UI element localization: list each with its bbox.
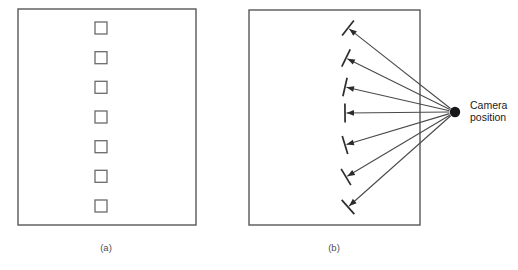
figure-container: (a) Camera position (b) bbox=[0, 0, 518, 270]
camera-label-line-1: Camera bbox=[470, 99, 508, 111]
panel-b-caption: (b) bbox=[328, 242, 340, 253]
figure-canvas: (a) Camera position (b) bbox=[0, 0, 518, 270]
patch-square bbox=[95, 200, 107, 212]
patch-square bbox=[95, 141, 107, 153]
patch-square bbox=[95, 111, 107, 123]
camera-position-dot bbox=[450, 107, 460, 117]
panel-a: (a) bbox=[18, 9, 196, 253]
panel-b-frame bbox=[249, 10, 420, 225]
patch-square bbox=[95, 81, 107, 93]
panel-b: Camera position (b) bbox=[249, 10, 508, 253]
panel-a-caption: (a) bbox=[100, 242, 112, 253]
patch-square bbox=[95, 22, 107, 34]
patch-square bbox=[95, 52, 107, 64]
camera-label-line-2: position bbox=[470, 111, 506, 123]
patch-square bbox=[95, 170, 107, 182]
